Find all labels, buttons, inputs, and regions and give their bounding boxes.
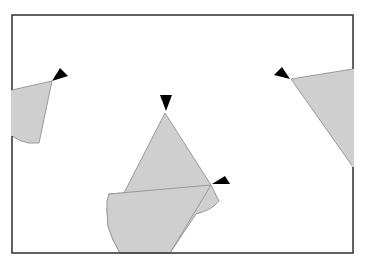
- agent-left-arrow-icon: [52, 68, 68, 81]
- agent-center-right-arrow-icon: [212, 176, 230, 184]
- fov-region-right: [291, 69, 353, 167]
- visibility-diagram-canvas: [0, 0, 365, 264]
- agent-right-arrow-icon: [274, 67, 290, 79]
- fov-region-left: [12, 81, 52, 143]
- fov-region-center-right: [107, 185, 211, 253]
- agent-center-top-arrow-icon: [160, 95, 172, 111]
